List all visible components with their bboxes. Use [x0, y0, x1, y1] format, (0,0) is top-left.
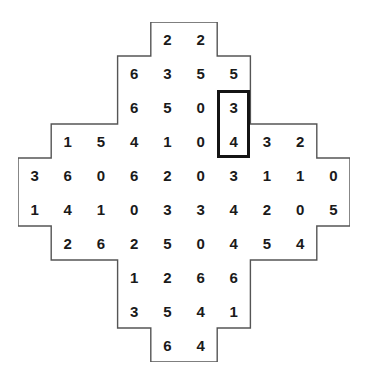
grid-cell-r5-c9[interactable]: 5	[317, 192, 350, 226]
grid-cell-r8-c4[interactable]: 5	[151, 294, 184, 328]
grid-cell-r5-c5[interactable]: 3	[184, 192, 217, 226]
grid-cell-r9-c4[interactable]: 6	[151, 328, 184, 362]
grid-cell-r3-c6[interactable]: 4	[217, 124, 250, 158]
grid-cell-r6-c2[interactable]: 6	[84, 226, 117, 260]
grid-cell-r5-c4[interactable]: 3	[151, 192, 184, 226]
grid-cell-r5-c0[interactable]: 1	[18, 192, 51, 226]
grid-cell-r3-c2[interactable]: 5	[84, 124, 117, 158]
grid-cell-r2-c6[interactable]: 3	[217, 90, 250, 124]
grid-cell-r8-c5[interactable]: 4	[184, 294, 217, 328]
grid-cell-r1-c6[interactable]: 5	[217, 56, 250, 90]
grid-cell-r1-c5[interactable]: 5	[184, 56, 217, 90]
grid-cell-r4-c3[interactable]: 6	[118, 158, 151, 192]
grid-cell-r5-c1[interactable]: 4	[51, 192, 84, 226]
grid-cell-r6-c8[interactable]: 4	[284, 226, 317, 260]
grid-cell-r3-c3[interactable]: 4	[118, 124, 151, 158]
grid-cell-r4-c1[interactable]: 6	[51, 158, 84, 192]
grid-cell-r3-c7[interactable]: 3	[250, 124, 283, 158]
grid-cell-r3-c5[interactable]: 0	[184, 124, 217, 158]
grid-cell-r8-c6[interactable]: 1	[217, 294, 250, 328]
grid-cell-r3-c1[interactable]: 1	[51, 124, 84, 158]
grid-cell-r6-c6[interactable]: 4	[217, 226, 250, 260]
grid-cell-r4-c4[interactable]: 2	[151, 158, 184, 192]
grid-cell-r5-c3[interactable]: 0	[118, 192, 151, 226]
grid-cell-r6-c7[interactable]: 5	[250, 226, 283, 260]
grid-cell-r5-c8[interactable]: 0	[284, 192, 317, 226]
grid-cell-r8-c3[interactable]: 3	[118, 294, 151, 328]
grid-cell-r4-c8[interactable]: 1	[284, 158, 317, 192]
grid-cell-r3-c8[interactable]: 2	[284, 124, 317, 158]
grid-cell-r7-c5[interactable]: 6	[184, 260, 217, 294]
grid-cell-r0-c4[interactable]: 2	[151, 22, 184, 56]
grid-cell-r6-c4[interactable]: 5	[151, 226, 184, 260]
grid-cell-r1-c4[interactable]: 3	[151, 56, 184, 90]
grid-cell-r7-c4[interactable]: 2	[151, 260, 184, 294]
grid-cell-r2-c4[interactable]: 5	[151, 90, 184, 124]
grid-cell-r5-c6[interactable]: 4	[217, 192, 250, 226]
grid-cell-r6-c5[interactable]: 0	[184, 226, 217, 260]
grid-cell-r1-c3[interactable]: 6	[118, 56, 151, 90]
grid-cell-r7-c3[interactable]: 1	[118, 260, 151, 294]
grid-cell-r9-c5[interactable]: 4	[184, 328, 217, 362]
grid-cell-r2-c3[interactable]: 6	[118, 90, 151, 124]
grid-cell-r6-c1[interactable]: 2	[51, 226, 84, 260]
grid-cell-r4-c0[interactable]: 3	[18, 158, 51, 192]
grid-cell-r4-c7[interactable]: 1	[250, 158, 283, 192]
grid-cell-r5-c2[interactable]: 1	[84, 192, 117, 226]
grid-cell-r4-c9[interactable]: 0	[317, 158, 350, 192]
grid-cell-r4-c2[interactable]: 0	[84, 158, 117, 192]
grid-cell-r4-c5[interactable]: 0	[184, 158, 217, 192]
grid-cell-r7-c6[interactable]: 6	[217, 260, 250, 294]
grid-cell-r6-c3[interactable]: 2	[118, 226, 151, 260]
digit-cell-layer: 2263556503154104323606203110141033420526…	[18, 22, 350, 362]
grid-cell-r4-c6[interactable]: 3	[217, 158, 250, 192]
grid-cell-r5-c7[interactable]: 2	[250, 192, 283, 226]
grid-cell-r0-c5[interactable]: 2	[184, 22, 217, 56]
grid-cell-r3-c4[interactable]: 1	[151, 124, 184, 158]
puzzle-board[interactable]: 2263556503154104323606203110141033420526…	[18, 22, 350, 362]
grid-cell-r2-c5[interactable]: 0	[184, 90, 217, 124]
